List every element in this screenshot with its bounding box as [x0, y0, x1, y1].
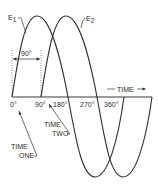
- tick-0deg: 0°: [10, 101, 17, 108]
- svg-text:TWO: TWO: [52, 130, 69, 137]
- phase-dimension-arrow: [13, 57, 40, 60]
- e1-label: E1: [8, 14, 26, 33]
- svg-text:TIME: TIME: [44, 121, 61, 128]
- svg-text:ONE: ONE: [19, 152, 35, 159]
- e2-label: E2: [81, 15, 95, 28]
- tick-270deg: 270°: [80, 101, 95, 108]
- phase-label: 90°: [21, 50, 32, 57]
- tick-90deg: 90°: [35, 101, 46, 108]
- time-one-annotation: TIME ONE: [11, 111, 37, 159]
- tick-180deg: 180°: [53, 101, 68, 108]
- svg-text:TIME: TIME: [117, 86, 134, 93]
- svg-text:TIME: TIME: [11, 143, 28, 150]
- svg-text:E2: E2: [86, 15, 95, 24]
- time-direction-label: TIME: [107, 86, 146, 93]
- phase-diagram: 90° E1 E2 TIME 0° 90° 180° 270° 360° TIM…: [0, 0, 158, 188]
- time-two-annotation: TIME TWO: [44, 104, 70, 137]
- tick-360deg: 360°: [104, 101, 119, 108]
- svg-text:E1: E1: [8, 14, 17, 23]
